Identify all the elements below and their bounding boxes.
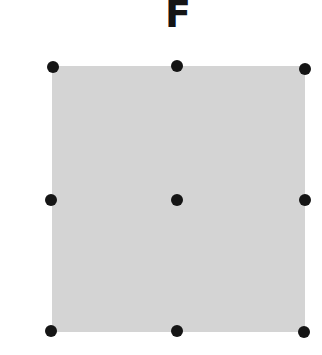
dot-top-right <box>299 63 311 75</box>
dot-bottom-right <box>298 326 310 338</box>
dot-bottom-center <box>171 325 183 337</box>
dot-bottom-left <box>45 325 57 337</box>
dot-middle-left <box>45 194 57 206</box>
dot-top-center <box>171 60 183 72</box>
dot-center <box>171 194 183 206</box>
dot-top-left <box>47 61 59 73</box>
diagram-title: F <box>0 0 322 34</box>
dot-middle-right <box>299 194 311 206</box>
